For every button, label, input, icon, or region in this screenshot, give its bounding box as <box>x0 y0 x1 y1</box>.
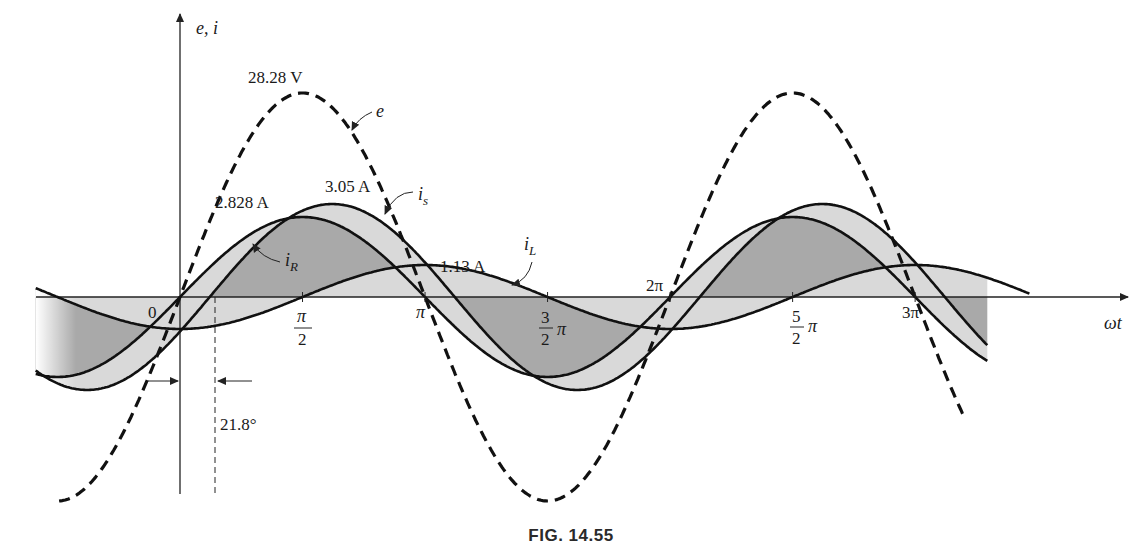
svg-text:3: 3 <box>541 308 550 327</box>
tick-label-pi-over-2: π 2 <box>294 306 312 349</box>
figure-caption: FIG. 14.55 <box>0 526 1142 546</box>
phase-angle-label: 21.8° <box>220 415 257 434</box>
tick-label-pi: π <box>416 302 426 322</box>
e-curve-label: e <box>376 101 384 121</box>
svg-text:2: 2 <box>298 330 307 349</box>
phasor-waveform-chart: e, i ωt 0 28.28 V 2.828 A 3.05 A 1.13 A … <box>0 0 1142 560</box>
origin-label: 0 <box>148 303 157 322</box>
tick-label-2pi: 2π <box>646 276 664 295</box>
svg-text:5: 5 <box>792 307 801 326</box>
iL-peak-label: 1.13 A <box>440 257 486 276</box>
x-axis-label: ωt <box>1104 313 1123 333</box>
is-curve-label: is <box>418 184 428 208</box>
left-fade <box>36 260 76 420</box>
e-leader <box>352 112 372 130</box>
tick-label-3pi: 3π <box>902 303 920 322</box>
svg-text:π: π <box>297 306 307 326</box>
svg-text:π: π <box>808 316 818 336</box>
right-fade <box>995 260 1035 420</box>
tick-label-5pi-over-2: 5 2 π <box>790 307 818 348</box>
is-peak-label: 3.05 A <box>325 177 371 196</box>
e-peak-label: 28.28 V <box>248 68 303 87</box>
svg-text:2: 2 <box>792 329 801 348</box>
svg-text:π: π <box>557 319 567 339</box>
iR-peak-label: 2.828 A <box>215 193 270 212</box>
iL-curve-label: iL <box>524 234 536 258</box>
y-axis-label: e, i <box>196 18 218 38</box>
iL-leader <box>512 262 532 285</box>
svg-text:2: 2 <box>541 330 550 349</box>
